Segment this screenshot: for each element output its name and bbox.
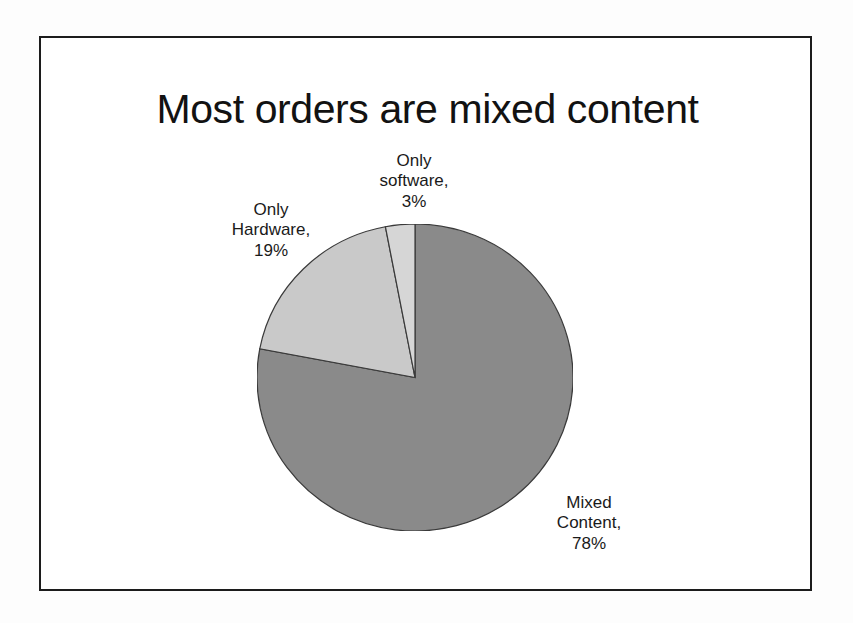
- data-label-only-software-value: 3%: [373, 192, 455, 212]
- data-label-mixed-content-line2: Content,: [530, 513, 648, 533]
- page-title: Most orders are mixed content: [41, 86, 814, 133]
- pie-chart-svg: [257, 224, 573, 531]
- data-label-mixed-content: Mixed Content, 78%: [530, 493, 648, 554]
- data-label-mixed-content-line1: Mixed: [530, 493, 648, 513]
- data-label-only-software-line1: Only: [373, 151, 455, 171]
- data-label-mixed-content-value: 78%: [530, 534, 648, 554]
- data-label-only-hardware-value: 19%: [209, 241, 333, 261]
- pie-chart: [257, 224, 573, 531]
- page-background: Most orders are mixed content Only softw…: [0, 0, 853, 623]
- data-label-only-software-line2: software,: [373, 171, 455, 191]
- data-label-only-software: Only software, 3%: [373, 151, 455, 212]
- data-label-only-hardware-line1: Only: [209, 200, 333, 220]
- data-label-only-hardware-line2: Hardware,: [209, 220, 333, 240]
- data-label-only-hardware: Only Hardware, 19%: [209, 200, 333, 261]
- slide-frame: Most orders are mixed content Only softw…: [39, 36, 812, 591]
